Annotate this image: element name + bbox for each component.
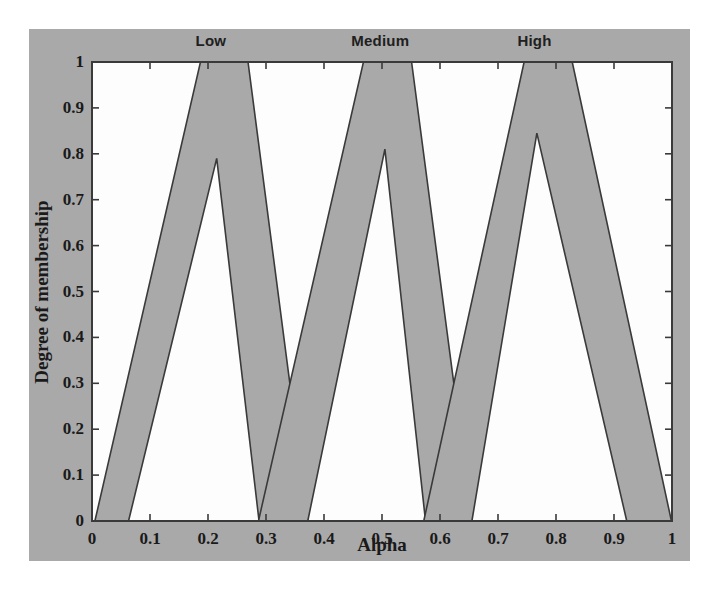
y-tick-label: 0.4 — [63, 327, 84, 347]
y-tick-label: 0 — [76, 511, 85, 531]
figure-window: Low Medium High 00.10.20.30.40.50.60.70.… — [0, 0, 707, 608]
x-tick-label: 0.6 — [429, 529, 450, 549]
x-tick-label: 0.1 — [139, 529, 160, 549]
x-tick-label: 0.2 — [197, 529, 218, 549]
mf-label-low: Low — [196, 32, 227, 49]
x-tick-label: 0.8 — [545, 529, 566, 549]
x-tick-label: 0.3 — [255, 529, 276, 549]
mf-label-high: High — [517, 32, 551, 49]
y-tick-label: 0.5 — [63, 282, 84, 302]
y-tick-label: 0.7 — [63, 190, 84, 210]
y-tick-label: 0.1 — [63, 465, 84, 485]
figure-panel — [29, 29, 690, 561]
y-tick-label: 0.3 — [63, 373, 84, 393]
x-tick-label: 0 — [88, 529, 97, 549]
y-tick-label: 0.8 — [63, 144, 84, 164]
x-axis-title: Alpha — [357, 534, 407, 556]
mf-label-medium: Medium — [351, 32, 409, 49]
y-tick-label: 1 — [76, 52, 85, 72]
y-axis-title: Degree of membership — [31, 200, 53, 383]
x-tick-label: 0.9 — [603, 529, 624, 549]
y-tick-label: 0.6 — [63, 236, 84, 256]
y-tick-label: 0.2 — [63, 419, 84, 439]
x-tick-label: 1 — [668, 529, 677, 549]
y-tick-label: 0.9 — [63, 98, 84, 118]
x-tick-label: 0.7 — [487, 529, 508, 549]
x-tick-label: 0.4 — [313, 529, 334, 549]
